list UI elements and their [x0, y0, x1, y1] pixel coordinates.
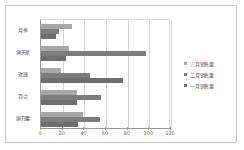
bar[interactable]: [41, 56, 66, 61]
plot-area: [40, 19, 170, 129]
value-axis: 020406080100120: [40, 130, 171, 140]
bar-group: [41, 42, 169, 64]
bar-group: [41, 20, 169, 42]
legend-label: 一月销售量: [190, 82, 214, 89]
legend-item[interactable]: 三月销售量: [184, 58, 240, 69]
category-label: 康乃馨: [7, 115, 39, 121]
bar-group: [41, 64, 169, 86]
chart-legend: 三月销售量二月销售量一月销售量: [184, 58, 240, 91]
tick-label: 100: [144, 130, 154, 136]
legend-item[interactable]: 二月销售量: [184, 69, 240, 80]
legend-swatch-icon: [184, 73, 187, 76]
bar-group: [41, 86, 169, 108]
tick-label: 0: [38, 130, 41, 136]
tick-label: 80: [123, 130, 129, 136]
tick-label: 60: [102, 130, 108, 136]
bar[interactable]: [41, 100, 77, 105]
category-label: 百合: [7, 93, 39, 99]
category-label: 满天星: [7, 49, 39, 55]
legend-item[interactable]: 一月销售量: [184, 80, 240, 91]
category-label: 玫瑰: [7, 71, 39, 77]
bar[interactable]: [41, 34, 56, 39]
legend-label: 二月销售量: [190, 71, 214, 78]
tick-label: 120: [165, 130, 175, 136]
gridline: [171, 20, 172, 128]
category-label: 月季: [7, 27, 39, 33]
legend-swatch-icon: [184, 84, 187, 87]
tick-label: 20: [58, 130, 64, 136]
legend-swatch-icon: [184, 62, 187, 65]
chart-frame: 月季满天星玫瑰百合康乃馨 020406080100120 三月销售量二月销售量一…: [5, 5, 237, 143]
category-axis: 月季满天星玫瑰百合康乃馨: [6, 19, 39, 129]
legend-label: 三月销售量: [190, 60, 214, 67]
bar[interactable]: [41, 78, 123, 83]
tick-label: 40: [80, 130, 86, 136]
bar[interactable]: [41, 122, 78, 127]
